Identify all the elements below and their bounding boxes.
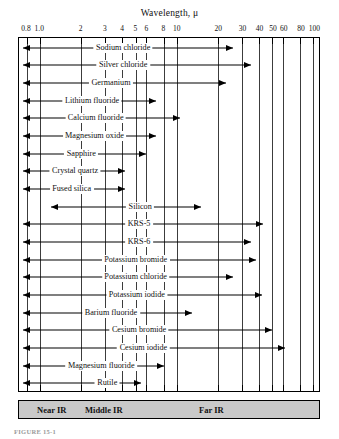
table-row[interactable]: Fused silica (19, 180, 319, 198)
table-row[interactable]: Silicon (19, 198, 319, 216)
legend-item-near-ir: Near IR (37, 405, 66, 415)
material-label: Silver chloride (96, 60, 149, 70)
material-label: Calcium fluoride (65, 113, 126, 123)
table-row[interactable]: Potassium iodide (19, 286, 319, 304)
x-tick-label-2: 2 (79, 24, 83, 34)
arrow-right-icon (255, 292, 262, 298)
material-label: Potassium chloride (102, 272, 170, 282)
x-tick-label-80: 80 (297, 24, 305, 34)
table-row[interactable]: KRS-6 (19, 233, 319, 251)
arrow-right-icon (249, 257, 256, 263)
arrow-left-icon (23, 98, 30, 104)
legend-item-middle-ir: Middle IR (85, 405, 123, 415)
legend-item-far-ir: Far IR (199, 405, 224, 415)
table-row[interactable]: Sapphire (19, 145, 319, 163)
arrow-right-icon (173, 115, 180, 121)
material-label: Crystal quartz (49, 166, 100, 176)
arrow-left-icon (23, 80, 30, 86)
table-row[interactable]: KRS-5 (19, 216, 319, 234)
arrow-right-icon (265, 327, 272, 333)
material-label: Barium fluoride (82, 308, 140, 318)
arrow-right-icon (118, 168, 125, 174)
arrow-right-icon (226, 45, 233, 51)
material-label: Lithium fluoride (62, 96, 121, 106)
arrow-left-icon (23, 380, 30, 386)
arrow-right-icon (149, 98, 156, 104)
figure-title: Wavelength, μ (0, 8, 339, 18)
arrow-right-icon (157, 363, 164, 369)
figure-ir-transmission-ranges: Wavelength, μ 0.81.023456810203040506080… (0, 0, 339, 439)
figure-caption: FIGURE 15-1 (14, 428, 56, 435)
arrow-left-icon (23, 168, 30, 174)
arrow-left-icon (23, 221, 30, 227)
table-row[interactable]: Magnesium oxide (19, 127, 319, 145)
table-row[interactable]: Lithium fluoride (19, 92, 319, 110)
table-row[interactable]: Crystal quartz (19, 163, 319, 181)
arrow-right-icon (244, 62, 251, 68)
table-row[interactable]: Cesium bromide (19, 321, 319, 339)
material-label: KRS-6 (125, 237, 153, 247)
table-row[interactable]: Barium fluoride (19, 304, 319, 322)
arrow-left-icon (23, 62, 30, 68)
x-tick-label-6: 6 (144, 24, 148, 34)
arrow-left-icon (23, 239, 30, 245)
table-row[interactable]: Silver chloride (19, 57, 319, 75)
x-tick-label-0.8: 0.8 (21, 24, 30, 34)
material-label: Magnesium fluoride (65, 361, 137, 371)
arrow-right-icon (244, 239, 251, 245)
arrow-right-icon (149, 133, 156, 139)
material-label: Cesium iodide (117, 343, 170, 353)
arrow-left-icon (23, 274, 30, 280)
table-row[interactable]: Calcium fluoride (19, 110, 319, 128)
material-label: KRS-5 (125, 219, 153, 229)
arrow-left-icon (23, 257, 30, 263)
x-tick-label-20: 20 (214, 24, 222, 34)
arrow-right-icon (219, 80, 226, 86)
arrow-left-icon (23, 327, 30, 333)
arrow-left-icon (23, 133, 30, 139)
material-label: Sodium chloride (93, 43, 152, 53)
arrow-right-icon (278, 345, 285, 351)
x-tick-label-5: 5 (134, 24, 138, 34)
x-tick-label-40: 40 (256, 24, 264, 34)
table-row[interactable]: Potassium bromide (19, 251, 319, 269)
arrow-right-icon (256, 221, 263, 227)
x-tick-label-60: 60 (280, 24, 288, 34)
x-tick-label-10: 10 (173, 24, 181, 34)
arrow-right-icon (194, 204, 201, 210)
arrow-left-icon (23, 310, 30, 316)
table-row[interactable]: Potassium chloride (19, 268, 319, 286)
range-bar (23, 383, 141, 384)
arrow-left-icon (23, 186, 30, 192)
table-row[interactable]: Magnesium fluoride (19, 357, 319, 375)
arrow-right-icon (139, 151, 146, 157)
x-tick-label-3: 3 (103, 24, 107, 34)
arrow-left-icon (23, 151, 30, 157)
table-row[interactable]: Germanium (19, 74, 319, 92)
plot-area: Sodium chlorideSilver chlorideGermaniumL… (18, 37, 320, 392)
arrow-right-icon (134, 380, 141, 386)
material-label: Sapphire (64, 149, 98, 159)
material-label: Magnesium oxide (63, 131, 127, 141)
ir-band-legend: Near IRMiddle IRFar IR (18, 400, 320, 419)
x-tick-label-8: 8 (162, 24, 166, 34)
material-label: Rutile (95, 378, 120, 388)
material-label: Cesium bromide (109, 325, 168, 335)
arrow-left-icon (23, 292, 30, 298)
x-tick-label-100: 100 (309, 24, 320, 34)
x-axis-tick-labels: 0.81.023456810203040506080100 (0, 24, 339, 36)
table-row[interactable]: Cesium iodide (19, 339, 319, 357)
table-row[interactable]: Rutile (19, 374, 319, 392)
x-tick-label-50: 50 (269, 24, 277, 34)
arrow-right-icon (226, 274, 233, 280)
material-label: Fused silica (50, 184, 94, 194)
table-row[interactable]: Sodium chloride (19, 39, 319, 57)
x-tick-label-30: 30 (239, 24, 247, 34)
arrow-left-icon (51, 204, 58, 210)
arrow-left-icon (23, 115, 30, 121)
material-label: Silicon (126, 202, 154, 212)
arrow-left-icon (23, 45, 30, 51)
arrow-left-icon (23, 345, 30, 351)
x-tick-label-1.0: 1.0 (35, 24, 44, 34)
x-tick-label-4: 4 (120, 24, 124, 34)
